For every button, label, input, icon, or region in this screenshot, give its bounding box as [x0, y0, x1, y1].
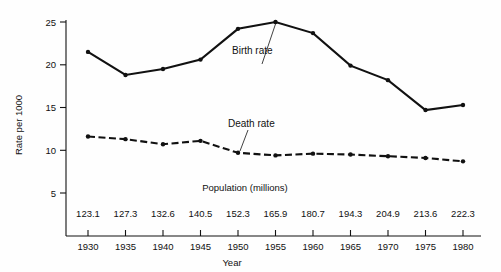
data-point	[236, 151, 240, 155]
y-tick-label-15: 15	[45, 102, 56, 113]
annotation-death-rate: Death rate	[228, 118, 275, 151]
death-rate-leader-line	[240, 130, 248, 151]
population-label-1965: 194.3	[339, 208, 363, 219]
birth-rate-leader-line	[262, 24, 276, 64]
population-label-1950: 152.3	[226, 208, 250, 219]
data-point	[461, 159, 465, 163]
population-label-1940: 132.6	[151, 208, 175, 219]
data-point	[311, 31, 315, 35]
data-point	[198, 139, 202, 143]
y-tick-label-25: 25	[45, 17, 56, 28]
x-tick-label-1970: 1970	[377, 241, 398, 252]
x-tick-label-1930: 1930	[77, 241, 98, 252]
population-axis: 123.1 127.3 132.6 140.5 152.3 165.9 180.…	[76, 182, 475, 219]
birth-rate-line	[88, 22, 463, 110]
data-point	[236, 27, 240, 31]
line-chart: 25 20 15 10 5 Rate per 1000 1930	[0, 0, 501, 272]
x-tick-label-1980: 1980	[452, 241, 473, 252]
data-point	[123, 137, 127, 141]
y-axis-title: Rate per 1000	[13, 95, 24, 155]
data-point	[386, 154, 390, 158]
x-axis-ticks	[88, 230, 463, 236]
data-point	[86, 50, 90, 54]
data-point	[86, 134, 90, 138]
data-point	[311, 151, 315, 155]
death-rate-label: Death rate	[228, 118, 275, 129]
data-point	[273, 20, 277, 24]
x-axis-title: Year	[222, 257, 241, 268]
data-point	[386, 78, 390, 82]
x-tick-label-1965: 1965	[340, 241, 361, 252]
population-label-1955: 165.9	[264, 208, 288, 219]
data-point	[161, 67, 165, 71]
chart-container: 25 20 15 10 5 Rate per 1000 1930	[0, 0, 501, 272]
x-tick-label-1935: 1935	[115, 241, 136, 252]
x-tick-label-1955: 1955	[265, 241, 286, 252]
y-tick-label-10: 10	[45, 145, 56, 156]
series-birth-rate	[86, 20, 465, 112]
x-tick-label-1940: 1940	[152, 241, 173, 252]
y-tick-label-20: 20	[45, 59, 56, 70]
x-tick-label-1960: 1960	[302, 241, 323, 252]
death-rate-markers	[86, 134, 465, 163]
data-point	[423, 108, 427, 112]
population-axis-title: Population (millions)	[202, 182, 288, 193]
population-label-1935: 127.3	[114, 208, 138, 219]
x-tick-label-1975: 1975	[415, 241, 436, 252]
data-point	[161, 142, 165, 146]
population-label-1945: 140.5	[189, 208, 213, 219]
population-label-1970: 204.9	[376, 208, 400, 219]
data-point	[461, 103, 465, 107]
data-point	[198, 57, 202, 61]
data-point	[273, 153, 277, 157]
population-label-1960: 180.7	[301, 208, 325, 219]
population-label-1980: 222.3	[451, 208, 475, 219]
x-tick-label-1950: 1950	[227, 241, 248, 252]
data-point	[348, 63, 352, 67]
y-axis-ticks	[60, 22, 66, 193]
data-point	[423, 156, 427, 160]
population-label-1930: 123.1	[76, 208, 100, 219]
x-tick-label-1945: 1945	[190, 241, 211, 252]
y-tick-label-5: 5	[51, 188, 56, 199]
population-label-1975: 213.6	[414, 208, 438, 219]
birth-rate-label: Birth rate	[232, 45, 273, 56]
death-rate-line	[88, 137, 463, 162]
x-axis: 1930 1935 1940 1945 1950 1955 1960 1965 …	[66, 230, 481, 268]
birth-rate-markers	[86, 20, 465, 112]
y-axis: 25 20 15 10 5 Rate per 1000	[13, 17, 66, 237]
data-point	[348, 152, 352, 156]
data-point	[123, 73, 127, 77]
series-death-rate	[86, 134, 465, 163]
